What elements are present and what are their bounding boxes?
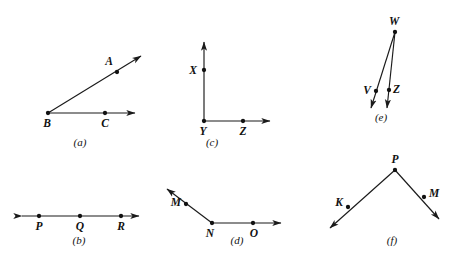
point-a-dot xyxy=(115,70,119,74)
point-k-label: K xyxy=(334,196,344,208)
point-v-dot xyxy=(374,89,378,93)
point-q-dot xyxy=(78,214,82,218)
point-r-label: R xyxy=(116,220,125,232)
panel-caption-c: (c) xyxy=(206,136,219,149)
point-m-dot xyxy=(184,202,188,206)
figure-sheet: ABC(a)PQR(b)XYZ(c)MNO(d)WVZ(e)PKM(f) xyxy=(0,0,458,266)
panel-caption-a: (a) xyxy=(74,136,87,149)
figure-panel-e: WVZ(e) xyxy=(363,15,400,124)
geometry-canvas: ABC(a)PQR(b)XYZ(c)MNO(d)WVZ(e)PKM(f) xyxy=(0,0,458,266)
point-z-label: Z xyxy=(392,83,400,95)
point-k-dot xyxy=(346,205,350,209)
point-p-dot xyxy=(37,214,41,218)
point-n-dot xyxy=(210,221,214,225)
point-w-dot xyxy=(393,30,397,34)
point-b-label: B xyxy=(42,117,51,129)
point-p-label: P xyxy=(391,153,399,165)
point-r-dot xyxy=(119,214,123,218)
point-x-label: X xyxy=(188,64,197,76)
figure-panel-d: MNO(d) xyxy=(167,189,281,247)
point-y-dot xyxy=(202,119,206,123)
point-o-dot xyxy=(251,221,255,225)
point-x-dot xyxy=(202,68,206,72)
point-c-label: C xyxy=(101,117,109,129)
point-v-label: V xyxy=(363,84,372,96)
point-p-label: P xyxy=(35,220,43,232)
point-c-dot xyxy=(103,111,107,115)
point-q-label: Q xyxy=(76,220,84,232)
panel-caption-d: (d) xyxy=(231,234,244,247)
panel-caption-e: (e) xyxy=(375,111,388,124)
figure-panel-b: PQR(b) xyxy=(22,214,139,247)
point-a-label: A xyxy=(104,55,113,67)
point-m-label: M xyxy=(170,196,182,208)
ray-b-to-a xyxy=(48,56,141,113)
point-m-dot xyxy=(422,195,426,199)
panel-caption-b: (b) xyxy=(73,234,86,247)
point-w-label: W xyxy=(389,15,400,27)
point-b-dot xyxy=(46,111,50,115)
figure-panel-a: ABC(a) xyxy=(42,55,141,149)
point-z-dot xyxy=(387,88,391,92)
figure-panel-c: XYZ(c) xyxy=(188,42,270,149)
panel-caption-f: (f) xyxy=(387,234,398,247)
point-m-label: M xyxy=(428,187,440,199)
figure-panel-f: PKM(f) xyxy=(330,153,440,247)
point-n-label: N xyxy=(205,227,215,239)
point-o-label: O xyxy=(250,227,258,239)
point-p-dot xyxy=(393,168,397,172)
point-z-dot xyxy=(241,119,245,123)
point-z-label: Z xyxy=(238,125,246,137)
